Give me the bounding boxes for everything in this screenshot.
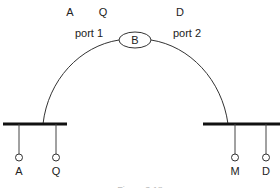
station-a-label: A: [15, 165, 23, 177]
port-2-label: port 2: [173, 27, 201, 39]
station-m-node: [232, 154, 239, 161]
figure-caption: Figure 3.18: [117, 185, 163, 188]
port-1-label: port 1: [75, 27, 103, 39]
top-label-port2-d: D: [176, 6, 184, 18]
top-label-port1-a: A: [66, 6, 74, 18]
bridge-diagram: A Q D port 1 port 2 B A Q M D Figure 3.1…: [0, 0, 280, 188]
station-d-label: D: [262, 165, 270, 177]
link-right: [151, 40, 228, 124]
station-m-label: M: [230, 165, 239, 177]
link-left: [43, 40, 119, 124]
station-q-label: Q: [52, 165, 61, 177]
bridge-label: B: [131, 34, 138, 46]
top-label-port1-q: Q: [99, 6, 108, 18]
station-a-node: [16, 154, 23, 161]
station-q-node: [53, 154, 60, 161]
station-d-node: [263, 154, 270, 161]
